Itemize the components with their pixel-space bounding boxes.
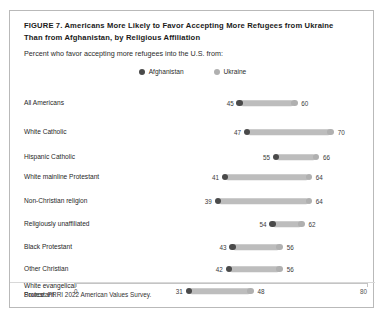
- legend-label: Afghanistan: [149, 68, 184, 75]
- value-label-afghanistan: 41: [203, 174, 219, 181]
- value-label-afghanistan: 47: [225, 129, 241, 136]
- data-point-afghanistan: [236, 100, 243, 107]
- x-axis-tick-min: [76, 283, 77, 287]
- chart-row: Black Protestant4356: [10, 237, 375, 257]
- dumbbell-connector: [229, 266, 280, 272]
- row-bar-area: 4164: [10, 167, 375, 187]
- dumbbell-connector: [218, 198, 309, 204]
- value-label-afghanistan: 42: [207, 266, 223, 273]
- data-point-ukraine: [276, 266, 283, 273]
- value-label-ukraine: 56: [287, 244, 294, 251]
- dumbbell-connector: [225, 174, 309, 180]
- chart-row: Hispanic Catholic5566: [10, 147, 375, 167]
- dumbbell-connector: [247, 129, 331, 135]
- row-bar-area: 4256: [10, 259, 375, 279]
- source-divider: [10, 282, 375, 283]
- data-point-ukraine: [306, 174, 313, 181]
- row-bar-area: 4356: [10, 237, 375, 257]
- row-bar-area: 3964: [10, 191, 375, 211]
- chart-plot-area: All Americans4560White Catholic4770Hispa…: [10, 81, 375, 281]
- dumbbell-connector: [272, 221, 301, 227]
- data-point-ukraine: [276, 244, 283, 251]
- value-label-ukraine: 64: [316, 198, 323, 205]
- value-label-ukraine: 62: [309, 221, 316, 228]
- x-axis-line: [76, 283, 367, 284]
- row-bar-area: 5462: [10, 214, 375, 234]
- legend-swatch-icon: [214, 69, 220, 75]
- value-label-ukraine: 64: [316, 174, 323, 181]
- value-label-ukraine: 60: [301, 100, 308, 107]
- x-axis-tick-max: [367, 283, 368, 287]
- value-label-afghanistan: 45: [218, 100, 234, 107]
- value-label-ukraine: 66: [323, 154, 330, 161]
- legend-swatch-icon: [139, 69, 145, 75]
- chart-row: White mainline Protestant4164: [10, 167, 375, 187]
- legend-label: Ukraine: [224, 68, 247, 75]
- chart-legend: AfghanistanUkraine: [10, 68, 375, 75]
- chart-row: White Catholic4770: [10, 122, 375, 142]
- data-point-ukraine: [313, 154, 320, 161]
- chart-row: Non-Christian religion3964: [10, 191, 375, 211]
- value-label-ukraine: 70: [338, 129, 345, 136]
- legend-entry: Afghanistan: [139, 68, 184, 75]
- data-point-afghanistan: [229, 244, 236, 251]
- dumbbell-connector: [276, 154, 316, 160]
- dumbbell-connector: [232, 244, 279, 250]
- data-point-ukraine: [291, 100, 298, 107]
- value-label-afghanistan: 43: [210, 244, 226, 251]
- data-point-ukraine: [327, 129, 334, 136]
- chart-row: All Americans4560: [10, 93, 375, 113]
- data-point-ukraine: [298, 221, 305, 228]
- figure-card: FIGURE 7. Americans More Likely to Favor…: [9, 10, 374, 308]
- x-axis-label-max: 80: [360, 288, 367, 295]
- source-note: Source: PRRI 2022 American Values Survey…: [24, 291, 151, 298]
- value-label-ukraine: 56: [287, 266, 294, 273]
- legend-entry: Ukraine: [214, 68, 247, 75]
- row-bar-area: 5566: [10, 147, 375, 167]
- chart-row: Other Christian4256: [10, 259, 375, 279]
- dumbbell-connector: [240, 100, 295, 106]
- value-label-afghanistan: 55: [254, 154, 270, 161]
- row-bar-area: 4560: [10, 93, 375, 113]
- figure-subtitle: Percent who favor accepting more refugee…: [24, 49, 354, 59]
- data-point-ukraine: [306, 198, 313, 205]
- figure-title: FIGURE 7. Americans More Likely to Favor…: [24, 20, 354, 44]
- chart-row: Religiously unaffiliated5462: [10, 214, 375, 234]
- data-point-afghanistan: [269, 221, 276, 228]
- value-label-afghanistan: 39: [196, 198, 212, 205]
- value-label-afghanistan: 54: [250, 221, 266, 228]
- row-bar-area: 4770: [10, 122, 375, 142]
